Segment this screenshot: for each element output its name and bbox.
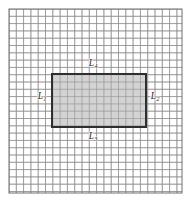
figure-canvas	[0, 0, 190, 203]
figure-container: L1L2L3L4	[0, 0, 190, 203]
